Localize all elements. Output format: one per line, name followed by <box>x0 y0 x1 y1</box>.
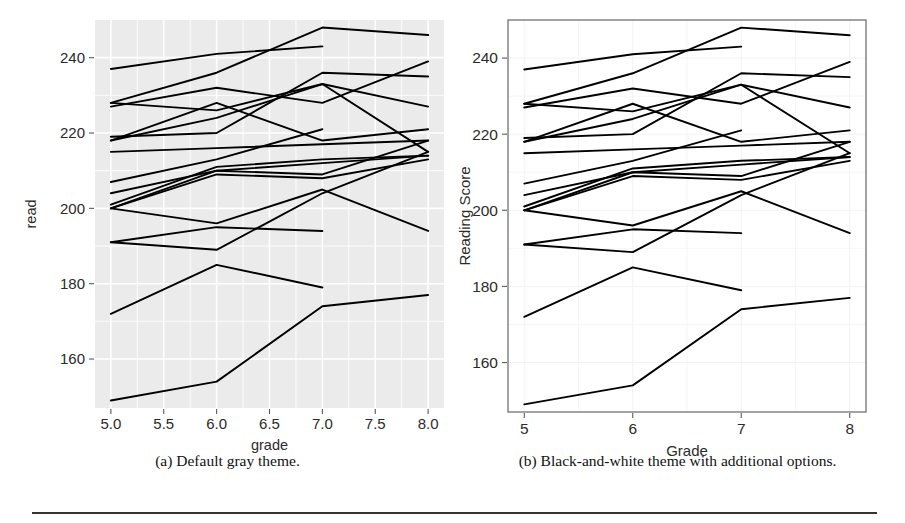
y-axis-tick-label: 220 <box>60 124 85 141</box>
x-axis-tick-label: 6.5 <box>259 415 280 432</box>
y-axis-tick-label: 240 <box>60 49 85 66</box>
y-axis-tick-label: 180 <box>60 275 85 292</box>
x-axis-tick-label: 5.0 <box>100 415 121 432</box>
y-axis-tick-label: 240 <box>472 49 498 66</box>
caption-subfigure-a: (a) Default gray theme. <box>0 452 455 470</box>
subfigure-b-bw-theme: 5678160180200220240GradeReading Score <box>450 0 905 470</box>
x-axis-tick-label: 7.5 <box>365 415 386 432</box>
y-axis-tick-label: 160 <box>60 350 85 367</box>
x-axis-tick-label: 8 <box>845 420 854 437</box>
y-axis-tick-label: 220 <box>472 126 498 143</box>
y-axis-title: Reading Score <box>456 166 473 265</box>
subfigure-a-default-gray-theme: 5.05.56.06.57.07.58.0160180200220240grad… <box>0 0 455 470</box>
x-axis-title: grade <box>251 437 288 453</box>
y-axis-tick-label: 160 <box>472 354 498 371</box>
y-axis-title: read <box>23 199 39 228</box>
figure-root: 5.05.56.06.57.07.58.0160180200220240grad… <box>0 0 905 523</box>
x-axis-tick-label: 5 <box>520 420 529 437</box>
y-axis-tick-label: 180 <box>472 278 498 295</box>
y-axis-tick-label: 200 <box>472 202 498 219</box>
plot-a-svg: 5.05.56.06.57.07.58.0160180200220240grad… <box>0 0 455 470</box>
x-axis-tick-label: 7.0 <box>312 415 333 432</box>
figure-bottom-rule <box>32 512 877 514</box>
x-axis-tick-label: 8.0 <box>418 415 439 432</box>
y-axis-tick-label: 200 <box>60 200 85 217</box>
x-axis-tick-label: 6.0 <box>206 415 227 432</box>
plot-b-svg: 5678160180200220240GradeReading Score <box>450 0 905 470</box>
x-axis-tick-label: 7 <box>737 420 746 437</box>
x-axis-tick-label: 6 <box>628 420 637 437</box>
x-axis-tick-label: 5.5 <box>153 415 174 432</box>
caption-subfigure-b: (b) Black-and-white theme with additiona… <box>450 452 905 470</box>
